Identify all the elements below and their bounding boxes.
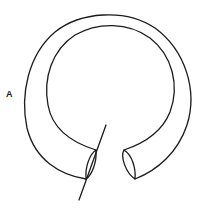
ring-outer-edge xyxy=(25,15,191,179)
left-end-cap xyxy=(86,150,96,179)
right-end-cap xyxy=(123,150,135,179)
section-indicator-line xyxy=(79,125,106,200)
penannular-ring-drawing xyxy=(0,0,204,208)
ring-inner-edge xyxy=(47,26,175,150)
